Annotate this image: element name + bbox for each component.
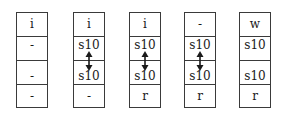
state-column-3: i s10 s10 r [129, 12, 161, 108]
cell-row-4: - [17, 84, 47, 106]
cell-row-2: s10 [240, 36, 270, 60]
state-column-2: i s10 s10 - [73, 12, 105, 108]
cell-row-4: r [130, 84, 160, 106]
cell-row-1: - [185, 13, 215, 36]
double-arrow-icon [196, 51, 204, 71]
cell-row-4: r [240, 84, 270, 106]
state-column-5: w s10 s10 r [239, 12, 271, 108]
cell-row-2: - [17, 36, 47, 60]
cell-row-1: i [130, 13, 160, 36]
cell-row-1: i [74, 13, 104, 36]
cell-row-4: - [74, 84, 104, 106]
double-arrow-icon [141, 51, 149, 71]
cell-row-3: - [17, 60, 47, 84]
cell-row-4: r [185, 84, 215, 106]
cell-row-1: i [17, 13, 47, 36]
state-column-1: i - - - [16, 12, 48, 108]
cell-row-3: s10 [240, 60, 270, 84]
double-arrow-icon [85, 51, 93, 71]
state-column-4: - s10 s10 r [184, 12, 216, 108]
cell-row-1: w [240, 13, 270, 36]
